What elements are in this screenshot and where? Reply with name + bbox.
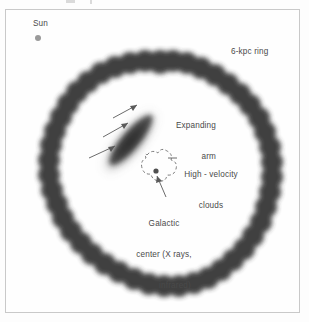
label-galactic-center: Galactic center (X rays, infrared): [120, 198, 208, 312]
figure-container: Sun 6-kpc ring Expanding arm High - velo…: [0, 0, 309, 322]
label-galactic-center-line2: center (X rays,: [120, 250, 208, 260]
sun-marker: [35, 35, 41, 41]
label-expanding-arm-line1: Expanding: [158, 121, 216, 131]
label-galactic-center-line1: Galactic: [120, 219, 208, 229]
label-six-kpc-ring: 6-kpc ring: [231, 47, 268, 57]
arm-arrow-upper: [113, 105, 137, 118]
label-galactic-center-line3: infrared): [142, 281, 208, 291]
label-sun: Sun: [33, 19, 48, 29]
label-high-velocity-clouds-line1: High - velocity: [178, 170, 244, 180]
